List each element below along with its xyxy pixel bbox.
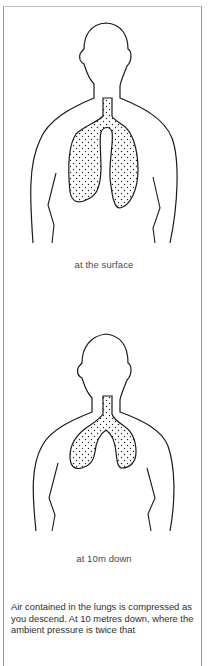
torso-lungs-surface-illustration [0, 0, 213, 250]
lungs-compressed [70, 396, 136, 469]
figure-10m: at 10m down [0, 318, 213, 538]
lungs-full [69, 98, 138, 208]
torso-outline [31, 23, 177, 243]
caption-10m: at 10m down [0, 553, 208, 564]
figure-surface: at the surface [0, 0, 213, 250]
caption-surface: at the surface [0, 259, 208, 270]
explanation-paragraph: Air contained in the lungs is compressed… [11, 601, 203, 636]
torso-lungs-10m-illustration [0, 318, 213, 538]
